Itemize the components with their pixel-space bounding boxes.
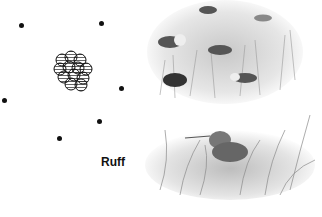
species-label: Ruff: [101, 155, 125, 169]
dot-4: [119, 86, 124, 91]
hatched-circle-cluster: [52, 50, 94, 92]
ruff-in-tall-grass: [140, 110, 320, 205]
dot-2: [99, 21, 104, 26]
dot-1: [19, 23, 24, 28]
ruffs-displaying-in-grass: [145, 0, 305, 105]
dot-6: [57, 136, 62, 141]
dot-3: [2, 98, 7, 103]
dot-5: [97, 119, 102, 124]
